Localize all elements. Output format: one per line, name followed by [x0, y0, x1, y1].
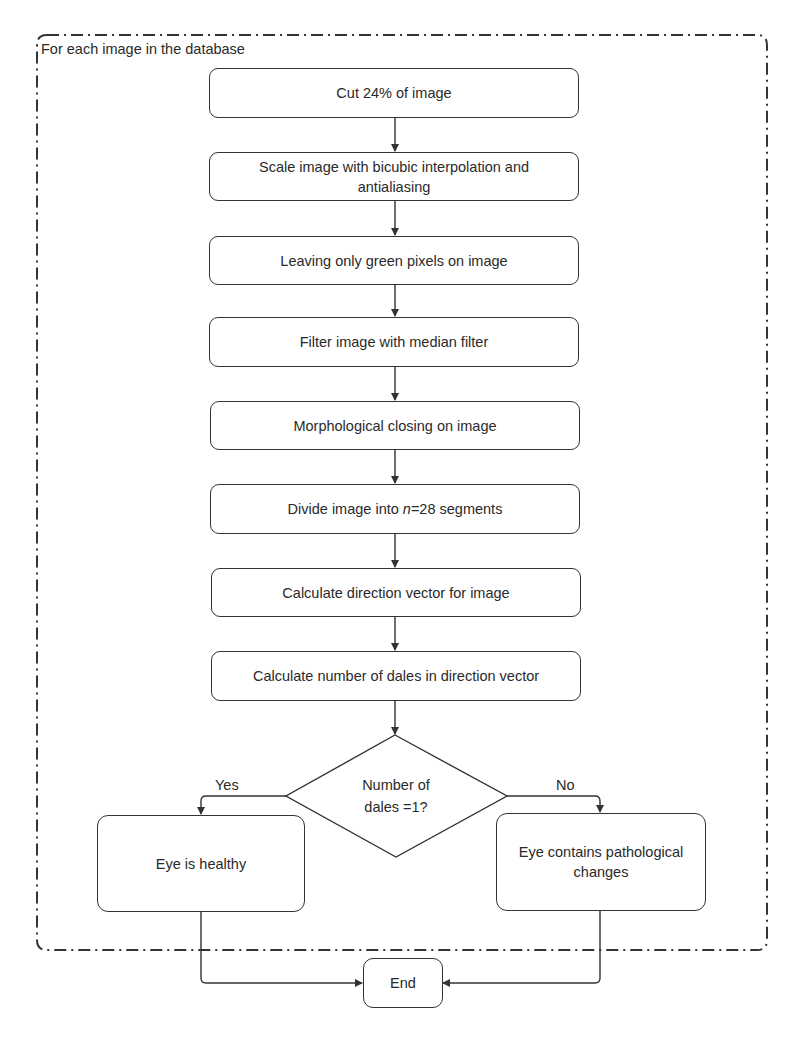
step-direction-vector: Calculate direction vector for image: [211, 568, 581, 617]
decision-line1: Number of: [326, 774, 466, 796]
step-morphological-closing: Morphological closing on image: [210, 401, 580, 450]
arrow-pathological-end: [443, 910, 600, 983]
step-green-pixels: Leaving only green pixels on image: [209, 236, 579, 285]
arrow-yes-branch: [201, 796, 286, 814]
step-morph-label: Morphological closing on image: [293, 416, 496, 436]
end-terminal: End: [363, 958, 443, 1008]
step-direction-label: Calculate direction vector for image: [282, 583, 509, 603]
step-dales-label: Calculate number of dales in direction v…: [253, 666, 539, 686]
step-median-filter: Filter image with median filter: [209, 317, 579, 367]
outcome-healthy-label: Eye is healthy: [156, 854, 246, 874]
end-label: End: [390, 973, 416, 993]
no-label: No: [556, 777, 575, 793]
step-scale-label: Scale image with bicubic interpolation a…: [240, 157, 548, 197]
step-count-dales: Calculate number of dales in direction v…: [211, 651, 581, 701]
arrow-healthy-end: [201, 911, 362, 983]
outcome-pathological: Eye contains pathological changes: [496, 813, 706, 911]
arrow-no-branch: [507, 796, 600, 812]
step-cut: Cut 24% of image: [209, 68, 579, 118]
step-scale: Scale image with bicubic interpolation a…: [209, 152, 579, 201]
step-median-label: Filter image with median filter: [300, 332, 489, 352]
step-cut-label: Cut 24% of image: [336, 83, 451, 103]
outcome-healthy: Eye is healthy: [97, 815, 305, 912]
step-divide-label: Divide image into n=28 segments: [288, 499, 503, 519]
flowchart: For each image in the database Cut 24% o…: [0, 0, 797, 1044]
decision-line2: dales =1?: [326, 796, 466, 818]
loop-label: For each image in the database: [41, 41, 245, 57]
step-green-label: Leaving only green pixels on image: [280, 251, 507, 271]
decision-text: Number of dales =1?: [326, 774, 466, 818]
outcome-pathological-label: Eye contains pathological changes: [503, 842, 699, 882]
step-divide: Divide image into n=28 segments: [210, 484, 580, 534]
yes-label: Yes: [215, 777, 239, 793]
